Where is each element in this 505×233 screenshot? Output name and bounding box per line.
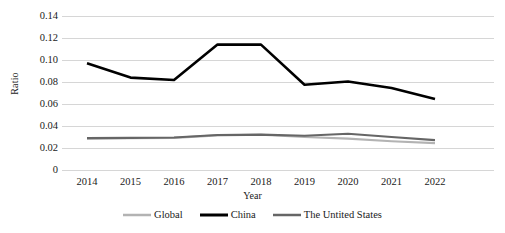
- legend-label: China: [231, 209, 256, 220]
- y-axis-tick-label: 0.10: [18, 55, 58, 66]
- y-axis-tick-label: 0.08: [18, 77, 58, 88]
- x-axis-tick-label: 2015: [106, 176, 156, 187]
- plot-area: [62, 16, 494, 170]
- series-lines: [62, 16, 494, 170]
- legend-item[interactable]: The Untited States: [273, 209, 382, 220]
- x-axis-tick-label: 2021: [367, 176, 417, 187]
- y-axis-tick-label: 0.06: [18, 99, 58, 110]
- legend-label: The Untited States: [304, 209, 382, 220]
- series-line: [87, 45, 435, 99]
- x-axis-tick-label: 2018: [236, 176, 286, 187]
- legend-swatch-icon: [200, 211, 228, 219]
- y-axis-tick-label: 0.02: [18, 143, 58, 154]
- legend-swatch-icon: [273, 211, 301, 219]
- legend-item[interactable]: China: [200, 209, 256, 220]
- chart-legend: GlobalChinaThe Untited States: [0, 209, 505, 220]
- x-axis-tick-label: 2020: [323, 176, 373, 187]
- x-axis-tick-label: 2014: [62, 176, 112, 187]
- x-axis-tick-label: 2016: [149, 176, 199, 187]
- legend-label: Global: [154, 209, 183, 220]
- legend-swatch-icon: [123, 211, 151, 219]
- y-axis-tick-label: 0.12: [18, 33, 58, 44]
- x-axis-tick-label: 2022: [410, 176, 460, 187]
- y-axis-tick-label: 0.14: [18, 11, 58, 22]
- y-axis-tick-label: 0.04: [18, 121, 58, 132]
- y-axis-tick-label: 0: [18, 165, 58, 176]
- x-axis-title: Year: [0, 190, 505, 201]
- x-axis-tick-label: 2019: [280, 176, 330, 187]
- line-chart: Ratio 0.140.120.100.080.060.040.020 2014…: [0, 0, 505, 233]
- x-axis-tick-label: 2017: [193, 176, 243, 187]
- gridline: [62, 170, 494, 171]
- legend-item[interactable]: Global: [123, 209, 183, 220]
